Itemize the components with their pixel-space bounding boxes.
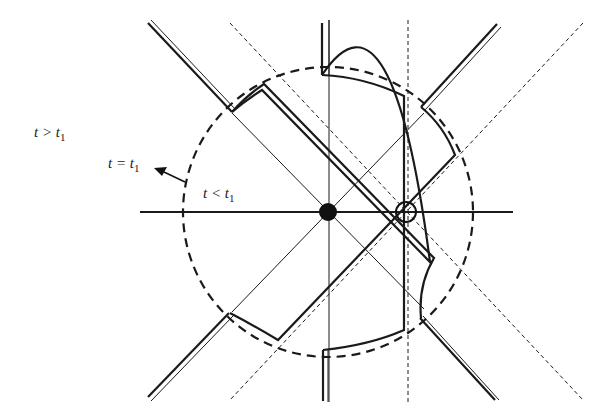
double-line-nw-b [151, 20, 236, 110]
double-line-nw-a [148, 23, 232, 112]
double-line-ne-a [421, 24, 497, 107]
double-line-se-b [423, 316, 499, 400]
diagram-canvas [0, 0, 609, 420]
double-line-se-a [420, 318, 495, 400]
boundary-arrow-line [164, 172, 185, 182]
label-boundary: t = t1 [108, 155, 139, 174]
double-line-sw-a [148, 313, 229, 397]
double-line-sw-b [151, 316, 233, 401]
region-boundary [232, 47, 430, 262]
center-dot [319, 203, 337, 221]
double-line-ne-b [425, 27, 501, 110]
boundary-arrow-head [154, 167, 167, 176]
label-inside: t < t1 [203, 185, 234, 204]
label-outside: t > t1 [34, 124, 65, 143]
